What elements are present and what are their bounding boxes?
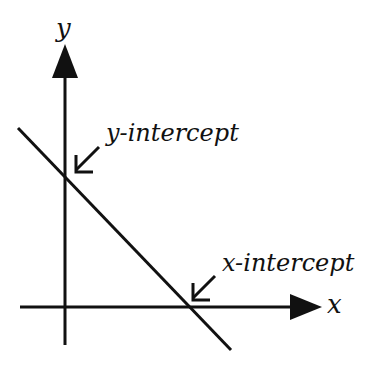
- y-axis-arrowhead-icon: [52, 44, 78, 78]
- x-axis-arrowhead-icon: [290, 294, 322, 320]
- y-intercept-label: y-intercept: [105, 119, 239, 147]
- intercepts-diagram: y x y-intercept x-intercept: [0, 0, 365, 368]
- x-intercept-label: x-intercept: [222, 249, 355, 277]
- x-axis-label: x: [327, 289, 342, 319]
- y-intercept-pointer: [76, 147, 99, 170]
- x-intercept-pointer: [193, 276, 215, 298]
- y-axis-label: y: [55, 13, 71, 43]
- linear-function-line: [18, 128, 231, 350]
